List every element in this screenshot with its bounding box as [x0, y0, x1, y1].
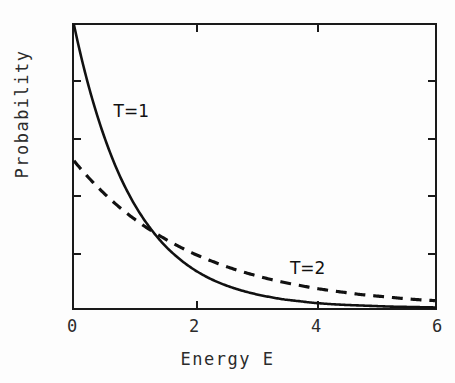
series-line-t2: [74, 161, 435, 301]
x-tick-label-2: 2: [189, 316, 199, 336]
x-tick-label-4: 4: [311, 316, 321, 336]
curve-canvas: [74, 25, 435, 308]
y-axis-title: Probability: [12, 29, 32, 199]
plot-area: T=1 T=2: [72, 23, 437, 310]
series-line-t1: [74, 25, 435, 307]
exponential-probability-chart: 1 0.8 0.6 0.4 0.2 0 0 2 4 6 Energy E Pro…: [0, 0, 455, 383]
x-tick-label-6: 6: [432, 316, 442, 336]
series-annotation-t2: T=2: [290, 258, 325, 278]
x-tick-label-0: 0: [67, 316, 77, 336]
series-annotation-t1: T=1: [114, 101, 149, 121]
x-axis-title: Energy E: [0, 349, 455, 369]
